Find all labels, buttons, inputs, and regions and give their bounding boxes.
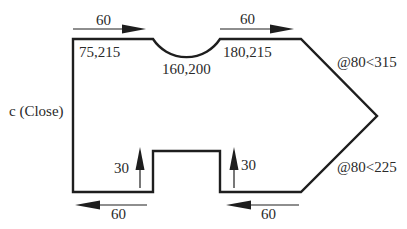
arrow-notch-right <box>230 147 239 188</box>
dim-bottom-left-label: 60 <box>111 207 126 222</box>
point-arc-mid-label: 160,200 <box>162 62 211 77</box>
close-command-label: c (Close) <box>9 104 64 119</box>
polar-upper-label: @80<315 <box>337 55 397 70</box>
point-arc-end-label: 180,215 <box>223 45 272 60</box>
arrow-notch-left <box>136 147 145 188</box>
point-start-label: 75,215 <box>79 45 120 60</box>
dim-top-right-label: 60 <box>240 12 255 27</box>
dim-notch-left-label: 30 <box>114 161 129 176</box>
arrow-top-right <box>220 25 294 34</box>
dim-notch-right-label: 30 <box>241 158 256 173</box>
polar-lower-label: @80<225 <box>337 160 397 175</box>
dim-bottom-right-label: 60 <box>261 207 276 222</box>
dim-top-left-label: 60 <box>96 13 111 28</box>
